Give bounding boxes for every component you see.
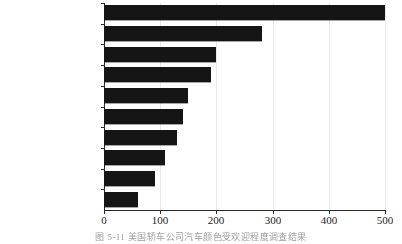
figure-caption: 图 5-11 美国轿车公司汽车颜色受欢迎程度调查结果: [0, 230, 402, 243]
bar-pink: [104, 109, 183, 124]
y-tick: [101, 44, 104, 45]
bar-row: Red: [104, 127, 385, 148]
bar-row: Cream: [104, 148, 385, 169]
gridline-500: [385, 3, 386, 210]
bar-row: Black: [104, 24, 385, 45]
x-axis-label: 500: [377, 214, 394, 226]
y-tick: [101, 127, 104, 128]
bar-row: Grey: [104, 65, 385, 86]
y-tick: [101, 189, 104, 190]
bar-row: Green: [104, 169, 385, 190]
plot-area: White Black Blue Grey Silver Pink: [104, 3, 385, 210]
bar-row: Silver: [104, 86, 385, 107]
x-axis-label: 100: [152, 214, 169, 226]
x-axis-label: 300: [265, 214, 282, 226]
bar-green: [104, 171, 155, 186]
bar-grey: [104, 67, 211, 82]
bar-red: [104, 130, 177, 145]
y-tick: [101, 3, 104, 4]
bar-cream: [104, 150, 165, 165]
y-tick: [101, 65, 104, 66]
bar-yellow: [104, 192, 138, 207]
bar-white: [104, 5, 385, 20]
y-tick: [101, 148, 104, 149]
bar-blue: [104, 47, 216, 62]
y-tick: [101, 169, 104, 170]
x-axis-label: 200: [208, 214, 225, 226]
y-tick: [101, 107, 104, 108]
y-tick: [101, 86, 104, 87]
bar-row: Blue: [104, 44, 385, 65]
bar-row: Yellow: [104, 189, 385, 210]
bar-row: White: [104, 3, 385, 24]
x-axis-line: [104, 210, 386, 211]
x-axis-label: 400: [321, 214, 338, 226]
bar-row: Pink: [104, 107, 385, 128]
figure-container: White Black Blue Grey Silver Pink: [0, 0, 402, 244]
y-tick: [101, 24, 104, 25]
x-axis-label: 0: [101, 214, 107, 226]
bar-silver: [104, 88, 188, 103]
bar-black: [104, 26, 262, 41]
